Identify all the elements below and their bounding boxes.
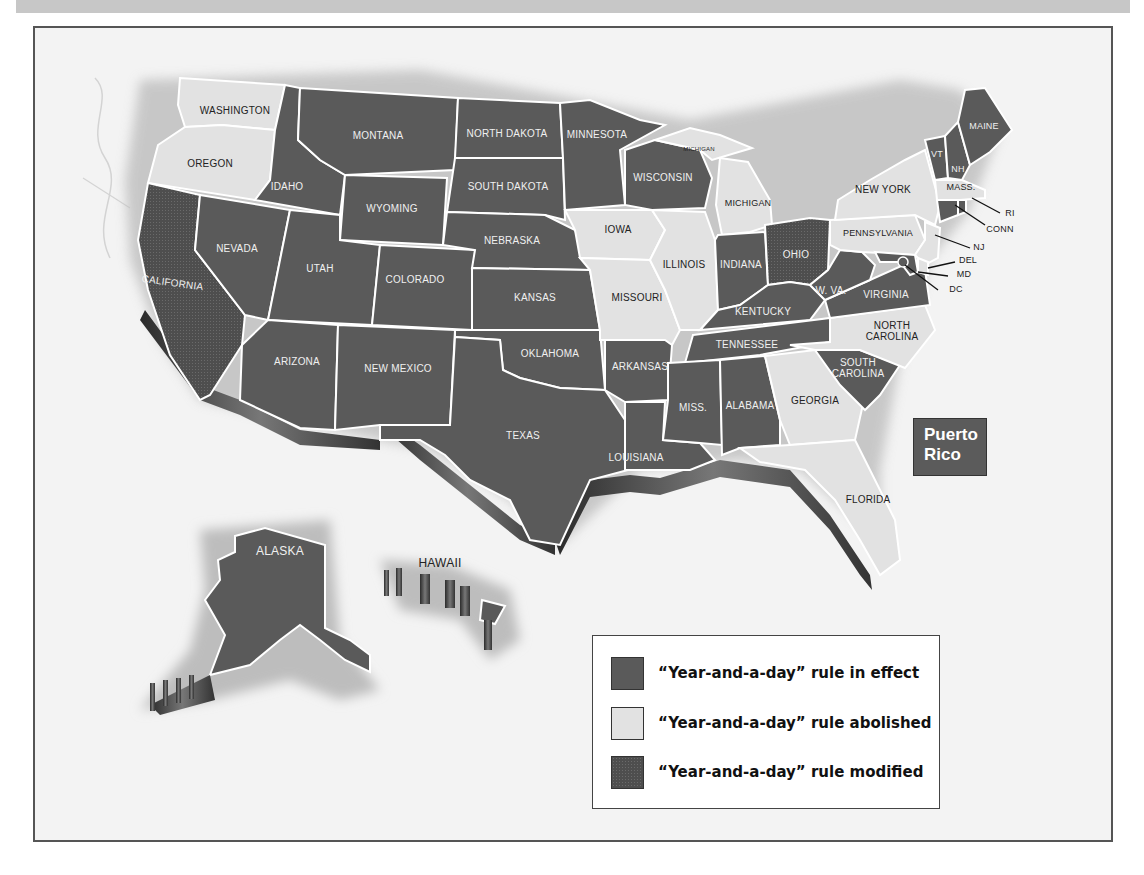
label-illinois: ILLINOIS [663,259,706,270]
label-hawaii: HAWAII [419,556,462,570]
label-rhode-island: RI [1005,208,1014,218]
label-maryland: MD [957,269,972,279]
label-michigan-upper: MICHIGAN [683,146,715,152]
label-massachusetts: MASS. [946,182,975,192]
label-alaska: ALASKA [256,544,304,558]
label-utah: UTAH [306,263,333,274]
label-arizona: ARIZONA [274,356,320,367]
legend-swatch-modified [611,756,644,789]
label-connecticut: CONN [986,224,1013,234]
label-south-carolina-2: CAROLINA [832,368,885,379]
label-west-virginia: W. VA. [815,285,846,296]
label-nebraska: NEBRASKA [484,235,540,246]
label-virginia: VIRGINIA [863,289,909,300]
state-washington[interactable] [178,78,285,130]
label-north-carolina-1: NORTH [874,320,910,331]
label-dc: DC [949,284,963,294]
puerto-rico-label-1: Puerto [924,425,986,445]
label-new-mexico: NEW MEXICO [364,363,432,374]
legend-swatch-abolished [611,707,644,740]
label-maine: MAINE [969,121,999,131]
label-oklahoma: OKLAHOMA [521,348,579,359]
legend-swatch-in-effect [611,657,644,690]
legend-label-in-effect: “Year-and-a-day” rule in effect [658,664,919,682]
label-louisiana: LOUISIANA [608,452,663,463]
label-tennessee: TENNESSEE [716,339,779,350]
label-new-jersey: NJ [973,242,984,252]
state-colorado[interactable] [372,245,475,330]
label-north-carolina-2: CAROLINA [866,331,919,342]
label-indiana: INDIANA [720,259,762,270]
label-washington: WASHINGTON [200,105,270,116]
label-colorado: COLORADO [386,274,445,285]
label-idaho: IDAHO [271,181,304,192]
label-iowa: IOWA [604,224,631,235]
label-minnesota: MINNESOTA [567,129,628,140]
label-georgia: GEORGIA [791,395,839,406]
label-north-dakota: NORTH DAKOTA [467,128,548,139]
label-ohio: OHIO [783,249,809,260]
label-mississippi: MISS. [679,402,707,413]
label-wyoming: WYOMING [366,203,417,214]
puerto-rico-label-2: Rico [924,445,986,465]
label-nevada: NEVADA [216,243,258,254]
state-iowa[interactable] [565,210,665,260]
label-new-york: NEW YORK [855,184,911,195]
label-wisconsin: WISCONSIN [633,172,693,183]
label-vermont: VT [931,149,943,159]
label-alabama: ALABAMA [726,400,775,411]
label-delaware: DEL [959,255,977,265]
map-legend: “Year-and-a-day” rule in effect “Year-an… [592,635,940,809]
legend-item-in-effect: “Year-and-a-day” rule in effect [611,656,919,690]
label-pennsylvania: PENNSYLVANIA [843,228,913,238]
label-michigan: MICHIGAN [725,198,772,208]
label-south-dakota: SOUTH DAKOTA [468,181,549,192]
legend-item-modified: “Year-and-a-day” rule modified [611,755,923,789]
label-texas: TEXAS [506,430,540,441]
legend-label-abolished: “Year-and-a-day” rule abolished [658,714,932,732]
label-montana: MONTANA [353,130,404,141]
legend-label-modified: “Year-and-a-day” rule modified [658,763,923,781]
label-south-carolina-1: SOUTH [840,357,876,368]
label-missouri: MISSOURI [611,292,662,303]
label-new-hampshire: NH [951,164,964,174]
legend-item-abolished: “Year-and-a-day” rule abolished [611,706,932,740]
label-arkansas: ARKANSAS [612,361,668,372]
territory-puerto-rico[interactable]: Puerto Rico [913,418,987,476]
label-oregon: OREGON [187,158,233,169]
state-new-mexico[interactable] [335,325,455,430]
label-florida: FLORIDA [846,494,891,505]
label-kentucky: KENTUCKY [735,306,791,317]
label-kansas: KANSAS [514,292,556,303]
